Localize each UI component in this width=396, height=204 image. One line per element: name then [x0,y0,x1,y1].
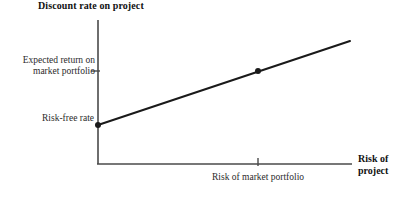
plot-area [0,0,396,204]
y-axis-label-expected-return: Expected return on market portfolio [0,55,95,77]
security-market-line-figure: Discount rate on project Expected return… [0,0,396,204]
x-axis-title: Risk of project [358,153,396,177]
x-axis-label-market-portfolio: Risk of market portfolio [206,172,310,183]
market-portfolio-point [255,68,261,74]
risk-free-rate-point [95,122,101,128]
y-axis-label-risk-free-rate: Risk-free rate [0,113,94,124]
security-market-line [98,41,350,125]
